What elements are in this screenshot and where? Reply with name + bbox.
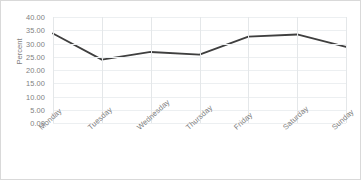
chart-container: Percent 40.0035.0030.0025.0020.0015.0010… [0, 0, 361, 180]
y-axis-tick-label: 20.00 [26, 66, 45, 75]
x-axis-tick-labels: MondayTuesdayWednesdayThursdayFridaySatu… [53, 125, 346, 179]
gridline-vertical [200, 17, 201, 123]
y-axis-tick-label: 35.00 [26, 26, 45, 35]
gridline-vertical [151, 17, 152, 123]
y-axis-tick-label: 15.00 [26, 79, 45, 88]
y-axis-tick-label: 10.00 [26, 92, 45, 101]
gridline-vertical [102, 17, 103, 123]
y-axis-tick-label: 30.00 [26, 39, 45, 48]
y-axis-tick-label: 5.00 [30, 105, 45, 114]
y-axis-tick-label: 40.00 [26, 13, 45, 22]
gridline-vertical [248, 17, 249, 123]
gridline-vertical [53, 17, 54, 123]
gridline-vertical [346, 17, 347, 123]
y-axis-tick-label: 25.00 [26, 52, 45, 61]
gridline-vertical [297, 17, 298, 123]
y-axis-tick-labels: 40.0035.0030.0025.0020.0015.0010.005.000… [1, 17, 49, 123]
